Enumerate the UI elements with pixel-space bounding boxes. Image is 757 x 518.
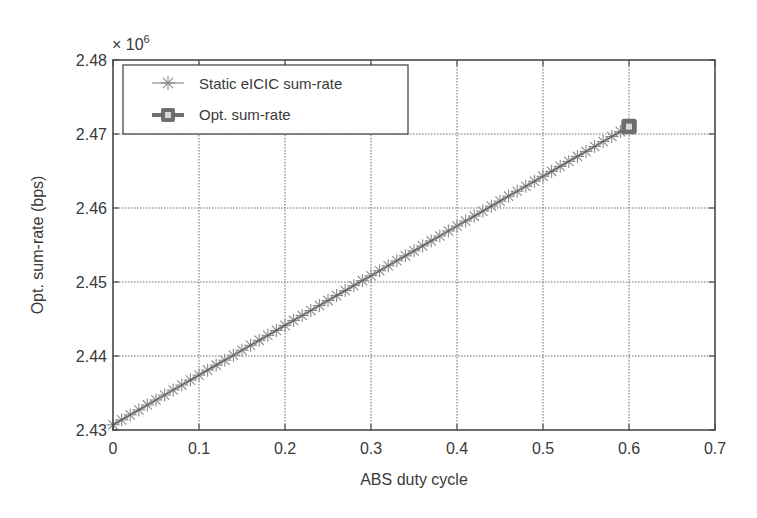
y-axis-label: Opt. sum-rate (bps) xyxy=(29,176,46,315)
x-tick-label: 0.1 xyxy=(188,440,210,457)
x-tick-label: 0 xyxy=(109,440,118,457)
legend-label-opt: Opt. sum-rate xyxy=(199,106,291,123)
y-tick-label: 2.46 xyxy=(76,200,107,217)
y-tick-label: 2.43 xyxy=(76,422,107,439)
x-axis-label: ABS duty cycle xyxy=(360,471,468,488)
x-tick-label: 0.6 xyxy=(618,440,640,457)
legend: Static eICIC sum-rate Opt. sum-rate xyxy=(123,65,408,134)
x-tick-label: 0.4 xyxy=(446,440,468,457)
legend-label-static: Static eICIC sum-rate xyxy=(199,75,342,92)
y-tick-label: 2.44 xyxy=(76,348,107,365)
x-tick-label: 0.3 xyxy=(360,440,382,457)
y-tick-label: 2.47 xyxy=(76,126,107,143)
x-tick-label: 0.2 xyxy=(274,440,296,457)
x-tick-label: 0.7 xyxy=(704,440,726,457)
x-tick-label: 0.5 xyxy=(532,440,554,457)
y-tick-label: 2.45 xyxy=(76,274,107,291)
y-multiplier-label: × 106 xyxy=(112,33,150,53)
sum-rate-chart: 00.10.20.30.40.50.60.7 2.432.442.452.462… xyxy=(0,0,757,518)
opt-sum-rate-series xyxy=(622,120,636,134)
legend-item-opt: Opt. sum-rate xyxy=(152,106,291,123)
y-tick-label: 2.48 xyxy=(76,52,107,69)
